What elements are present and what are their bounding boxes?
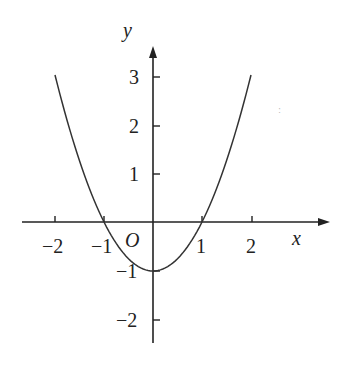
x-tick-label: 2 (246, 235, 256, 257)
y-tick-label: 2 (129, 115, 139, 137)
y-axis-label: y (121, 19, 132, 42)
y-ticks (153, 77, 160, 320)
origin-label: O (125, 229, 139, 251)
x-tick-label: −1 (91, 235, 112, 257)
y-axis-arrow-icon (149, 46, 157, 58)
x-axis-label: x (291, 227, 301, 249)
x-tick-label: 1 (196, 235, 206, 257)
speck: : (278, 105, 281, 115)
x-axis-arrow-icon (318, 218, 330, 226)
parabola-graph: y x O −2 −1 1 2 3 2 1 −1 −2 : (0, 0, 337, 365)
x-tick-label: −2 (42, 235, 63, 257)
y-tick-label: −2 (116, 309, 137, 331)
y-tick-label: 1 (129, 163, 139, 185)
y-tick-label: −1 (116, 260, 137, 282)
y-tick-label: 3 (129, 66, 139, 88)
